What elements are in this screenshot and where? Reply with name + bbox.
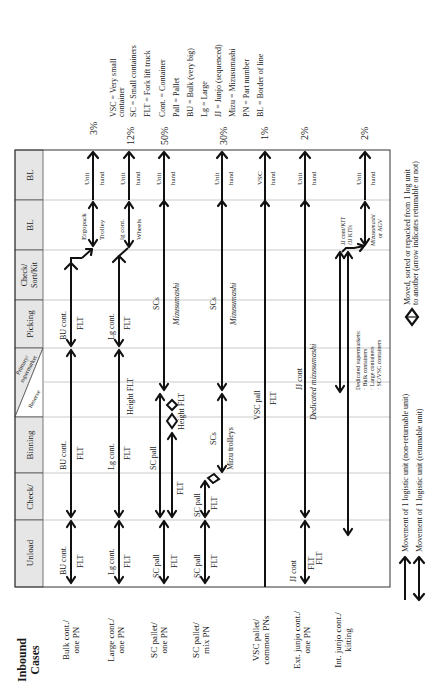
label-sc-one-unload: SC pall (152, 553, 161, 578)
label-ext-jj-cont: JJ cont (295, 367, 304, 390)
case-labels: Inbound Cases Bulk cont./ one PN Large c… (15, 611, 353, 683)
case-label-sc-one-1: SC pallet/ (149, 622, 159, 658)
label-large-picking-flt: FLT (123, 316, 132, 330)
glossary-item: JJ = Junjo (sequenced) (214, 44, 223, 117)
stage-label-picking: Picking (25, 310, 35, 338)
glossary: VSC = Very small container SC = Small co… (109, 44, 265, 117)
label-sc-mix-unit: Unit (213, 173, 221, 186)
glossary-item: container (117, 87, 126, 117)
label-int-jj-unit: Unit (355, 173, 363, 186)
label-sc-one-unload-flt: FLT (170, 554, 179, 568)
case-label-ext-jj-1: Ext. junjo cont./ (292, 611, 302, 669)
glossary-item: Pall = Pallet (172, 77, 181, 117)
label-vsc-hand: hand (269, 171, 277, 185)
label-sc-mix-mizu-trolleys: Mizu trolleys (226, 427, 235, 470)
case-label-sc-mix-1: SC pallet/ (191, 622, 201, 658)
label-ext-jj-unit: Unit (296, 173, 304, 186)
label-sc-mix-hand: hand (227, 171, 235, 185)
label-int-jj-agv: or AGV (377, 218, 383, 238)
case-label-bulk-2: one PN (71, 626, 81, 653)
label-large-wheels: Wheels (135, 219, 143, 240)
flow-vsc (260, 152, 270, 587)
case-label-large-1: Large cont./ (106, 618, 116, 662)
inbound-cases-title-2: Cases (28, 645, 42, 675)
label-vsc-vsc: VSC (256, 171, 264, 185)
stage-label-bl1: BL (25, 219, 35, 231)
label-ext-jj-hand: hand (310, 171, 318, 185)
label-int-jj-kit-2: /JJ KITs (347, 225, 353, 245)
legend: Movement of 1 logistic unit (non-returna… (400, 161, 424, 600)
label-bulk-binning: BU cont. (59, 441, 68, 470)
stage-label-check: Check/ (25, 484, 35, 510)
label-sc-mix-mizusumashi: Mizusumashi (229, 283, 238, 326)
label-sc-one-binning: SC pall (149, 445, 158, 470)
glossary-item: FLT = Fork lift truck (143, 50, 152, 117)
percent-ext-jj: 2% (299, 127, 310, 140)
label-large-unload-flt: FLT (123, 554, 132, 568)
label-sc-one-height-flt: Height FLT (177, 393, 186, 430)
case-label-int-jj-1: Int. junjo cont./ (333, 612, 343, 668)
label-sc-one-mizusumashi: Mizusumashi (172, 283, 181, 326)
inbound-cases-title-1: Inbound (15, 638, 29, 682)
percent-int-jj: 2% (359, 127, 370, 140)
percent-sc-one: 50% (159, 127, 170, 145)
label-ext-jj-unload-flt-2: FLT (315, 551, 324, 565)
label-large-unit: Unit (119, 173, 127, 186)
label-large-binning: Lg cont. (107, 443, 116, 470)
label-ext-jj-dedicated-mizusumashi: Dedicated mizusumashi (309, 344, 318, 421)
label-bulk-picking: BU cont. (59, 311, 68, 340)
label-large-lg-cont: lg cont. (118, 219, 126, 240)
case-label-bulk-1: Bulk cont./ (61, 620, 71, 660)
case-label-sc-mix-2: mix PN (201, 626, 211, 654)
flow-sc-one (156, 152, 177, 583)
label-vsc-pall: VSC pall (253, 390, 262, 420)
glossary-item: BL = Border of line (256, 53, 265, 117)
label-large-binning-flt: FLT (123, 446, 132, 460)
label-bulk-unload: BU cont. (59, 546, 68, 575)
label-large-hand: hand (134, 171, 142, 185)
legend-non-returnable: Movement of 1 logistic unit (non-returna… (400, 393, 410, 600)
legend-returnable: Movement of 1 logistic unit (returnable … (414, 408, 424, 600)
label-sc-mix-unload: SC pall (193, 553, 202, 578)
label-supermarket-bulk: · Bulk containers (362, 348, 368, 390)
case-label-vsc-2: common PNs (261, 615, 271, 664)
stage-label-unload: Unload (25, 539, 35, 566)
inbound-flow-diagram: BL BL Check/ Sort/Kit Picking Primary/ s… (0, 0, 437, 690)
glossary-item: BU = Bulk (very big) (186, 48, 195, 117)
label-large-unload: Lg cont. (107, 548, 116, 575)
glossary-item: Cont. = Container (158, 59, 167, 117)
glossary-item: Mizu = Mizusumashi (228, 48, 237, 117)
label-sc-one-scs: SCs (152, 297, 161, 310)
case-label-int-jj-2: kitting (343, 628, 353, 652)
legend-repack-text-2: to another (arrow indicates returnable o… (411, 161, 420, 305)
legend-repack: Moved, sorted or repacked from 1 log uni… (403, 161, 420, 325)
glossary-item: SC = Small containers (129, 45, 138, 117)
label-int-jj-hand: hand (369, 171, 377, 185)
label-bulk-binning-flt: FLT (76, 446, 85, 460)
stage-label-check-sort-kit-1: Check/ (20, 263, 29, 286)
label-sc-mix-check: SC pall (193, 492, 202, 517)
label-sc-mix-check-flt: FLT (210, 496, 219, 510)
percent-large: 12% (125, 127, 136, 145)
label-int-jj-mizusumashi: Mizusumashi (370, 214, 376, 247)
flow-int-jj (336, 152, 370, 535)
label-sc-mix-scs: SCs (209, 432, 218, 445)
percent-vsc: 1% (259, 127, 270, 140)
label-large-picking: Lg cont. (107, 313, 116, 340)
label-sc-mix-unload-flt: FLT (210, 554, 219, 568)
label-sc-mix-scs-picking: SCs (209, 297, 218, 310)
percent-sc-mix: 30% (218, 127, 229, 145)
label-bulk-unload-flt: FLT (76, 554, 85, 568)
label-supermarket-sc-vsc: · SC/VSC containers (376, 339, 382, 390)
case-label-large-2: one PN (116, 626, 126, 653)
case-percentages: 3% 12% 50% 30% 1% 2% 2% (88, 122, 370, 145)
stage-label-bl2: BL (25, 169, 35, 181)
legend-returnable-text: Movement of 1 logistic unit (returnable … (415, 408, 424, 552)
label-sc-one-unit: Unit (155, 173, 163, 186)
label-bulk-picking-flt: FLT (76, 316, 85, 330)
legend-non-returnable-text: Movement of 1 logistic unit (non-returna… (401, 393, 410, 552)
glossary-item: Lg = Large (200, 81, 209, 117)
stage-label-binning: Binning (25, 430, 35, 460)
case-label-sc-one-2: one PN (159, 626, 169, 653)
label-dedicated-supermarkets: Dedicated supermarkets: (355, 330, 361, 390)
